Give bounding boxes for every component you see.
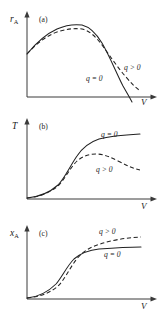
panel-c-label-q-greater-0: q > 0: [99, 227, 116, 236]
panel-c-plot: xA (c) V q > 0 q = 0: [0, 213, 165, 319]
panel-c-y-axis-label: xA: [9, 228, 19, 239]
panel-c-tag: (c): [39, 229, 48, 238]
panel-b-plot: T (b) V q = 0 q > 0: [0, 106, 165, 213]
panel-b-label-q-greater-0: q > 0: [96, 165, 113, 174]
panel-a-label-q-equals-0: q = 0: [86, 74, 103, 83]
panel-c-curve-q-greater-0: [27, 237, 141, 298]
panel-b: T (b) V q = 0 q > 0: [0, 106, 165, 213]
panel-a-plot: rA (a) V q = 0 q > 0: [0, 0, 165, 106]
panel-a-y-axis-arrow-icon: [24, 11, 29, 18]
panel-c-x-axis-label: V: [141, 301, 148, 311]
panel-b-curve-q-greater-0: [27, 154, 140, 198]
panel-a-label-q-greater-0: q > 0: [124, 63, 141, 72]
panel-c-y-axis-arrow-icon: [24, 225, 29, 232]
figure-container: rA (a) V q = 0 q > 0 T (b) V q = 0 q > 0: [0, 0, 165, 319]
panel-c-label-q-equals-0: q = 0: [104, 250, 121, 259]
panel-a-tag: (a): [39, 15, 48, 24]
panel-b-curve-q-equals-0: [27, 134, 140, 198]
panel-b-y-axis-arrow-icon: [24, 118, 29, 125]
panel-a-y-axis-label: rA: [10, 14, 19, 25]
panel-a-x-axis-label: V: [141, 97, 148, 106]
panel-c-x-axis-arrow-icon: [151, 296, 158, 301]
panel-c: xA (c) V q > 0 q = 0: [0, 213, 165, 319]
panel-a-curve-q-equals-0: [27, 25, 132, 102]
panel-b-x-axis-arrow-icon: [151, 196, 158, 201]
panel-b-label-q-equals-0: q = 0: [101, 130, 118, 139]
panel-a: rA (a) V q = 0 q > 0: [0, 0, 165, 106]
panel-b-x-axis-label: V: [141, 201, 148, 211]
panel-a-x-axis-arrow-icon: [151, 94, 158, 99]
panel-b-tag: (b): [39, 122, 48, 131]
panel-c-curve-q-equals-0: [27, 247, 141, 298]
panel-b-y-axis-label: T: [12, 121, 18, 131]
